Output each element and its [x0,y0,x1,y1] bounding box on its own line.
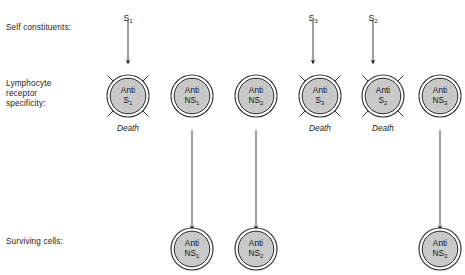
surviving-cell-surv-ns3-cell-body [422,231,458,267]
stimulus-label-s1: S1 [123,14,132,23]
receptor-cell-anti-ns3-cell-body [422,78,458,114]
surviving-cell-surv-ns2-cell-body [238,231,274,267]
receptor-cell-anti-s3-cell-body [302,78,338,114]
receptor-cells-group [107,75,461,117]
receptor-cell-anti-ns1-cell-body [174,78,210,114]
surviving-cell-surv-ns1-cell-body [174,231,210,267]
surviving-cells-group [171,228,461,270]
row-label-self-constituents: Self constituents: [6,23,71,33]
diagram-canvas [0,0,465,275]
row-label-surviving-cells: Surviving cells: [6,237,63,247]
stimulus-label-s2: S2 [368,14,377,23]
survival-arrows-group [192,130,440,228]
receptor-cell-anti-s3-death-caption: Death [309,124,331,133]
clonal-deletion-diagram: Self constituents: Lymphocyte receptor s… [0,0,465,275]
receptor-cell-anti-s1-cell-body [110,78,146,114]
receptor-cell-anti-s1-death-caption: Death [117,124,139,133]
receptor-cell-anti-ns2-cell-body [238,78,274,114]
row-label-lymphocyte-receptor-specificity: Lymphocyte receptor specificity: [6,79,51,108]
receptor-cell-anti-s2-death-caption: Death [372,124,394,133]
receptor-cell-anti-s2-cell-body [365,78,401,114]
stimulus-arrows-group [128,20,373,62]
stimulus-label-s3: S3 [308,14,317,23]
